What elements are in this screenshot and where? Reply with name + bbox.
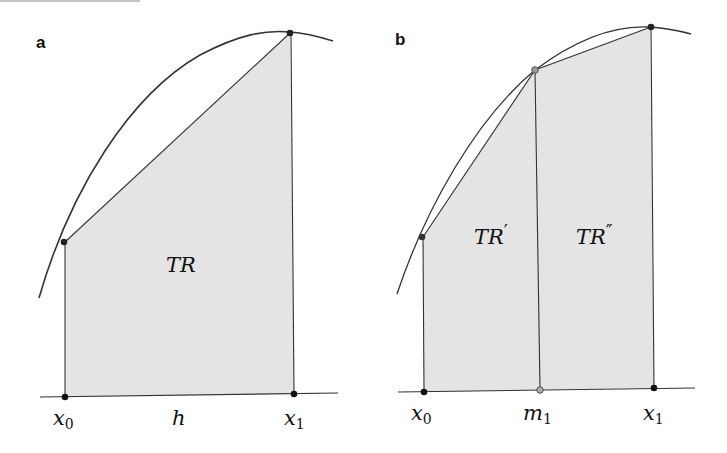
point-x0-axis (62, 394, 69, 401)
axis-label-x1: x1 (284, 406, 305, 432)
axis-label-x0: x0 (53, 406, 74, 432)
region-label-tr: TR (166, 253, 196, 277)
axis-label-x1: x1 (643, 401, 664, 427)
panel-a: a TR x0 h x1 (36, 30, 338, 432)
region-label-tr-prime: TR′ (474, 221, 508, 249)
point-x1-curve (287, 30, 294, 37)
point-m1-axis (537, 387, 544, 394)
point-x1-axis (291, 391, 298, 398)
panel-b-letter: b (395, 30, 405, 49)
trapezoid-tr-double-prime (534, 27, 654, 390)
axis-label-h: h (172, 406, 186, 430)
axis-label-x0: x0 (411, 401, 432, 427)
point-x0-curve (419, 234, 426, 241)
point-x0-curve (61, 239, 68, 246)
point-x1-curve (648, 24, 655, 31)
point-x1-axis (651, 385, 658, 392)
point-x0-axis (421, 389, 428, 396)
panel-b: b TR′ TR″ x0 m1 (395, 24, 695, 427)
trapezoid-rule-figure: a TR x0 h x1 b (0, 0, 727, 453)
point-m1-curve (532, 67, 539, 74)
trapezoid-tr (65, 33, 294, 397)
axis-label-m1: m1 (523, 401, 552, 427)
panel-a-letter: a (36, 33, 46, 52)
